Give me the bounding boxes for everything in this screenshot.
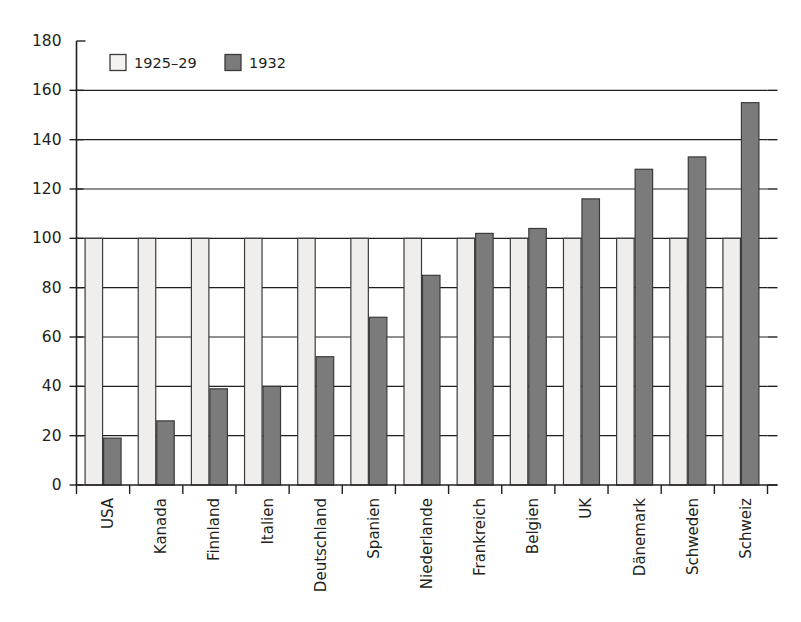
y-tick-label: 20 xyxy=(42,427,62,445)
bar-1925-29 xyxy=(298,238,316,485)
bar-1932 xyxy=(476,233,494,485)
y-tick-label: 60 xyxy=(42,328,62,346)
x-tick-label: UK xyxy=(577,497,595,519)
legend-swatch-1932 xyxy=(225,55,241,71)
x-tick-label: Dänemark xyxy=(631,498,649,576)
y-tick-labels: 020406080100120140160180 xyxy=(32,32,62,494)
y-tick-label: 0 xyxy=(52,476,62,494)
y-tick-label: 100 xyxy=(32,229,62,247)
y-axis xyxy=(77,41,86,485)
bar-1932 xyxy=(104,438,122,485)
legend-label-1932: 1932 xyxy=(249,55,286,71)
bar-1925-29 xyxy=(245,238,262,485)
y-tick-label: 160 xyxy=(32,81,62,99)
bar-1932 xyxy=(582,199,600,485)
legend: 1925–291932 xyxy=(110,55,286,71)
x-tick-labels: USAKanadaFinnlandItalienDeutschlandSpani… xyxy=(99,497,755,592)
x-tick-label: Spanien xyxy=(365,498,383,559)
bar-1925-29 xyxy=(85,238,103,485)
bars xyxy=(85,103,759,485)
bar-1925-29 xyxy=(510,238,528,485)
legend-label-1925-29: 1925–29 xyxy=(134,55,197,71)
y-tick-label: 180 xyxy=(32,32,62,50)
bar-1932 xyxy=(263,386,281,485)
bar-1925-29 xyxy=(351,238,369,485)
x-tick-label: USA xyxy=(99,497,117,529)
x-tick-label: Finnland xyxy=(205,498,223,561)
x-tick-label: Kanada xyxy=(152,498,170,554)
bar-1932 xyxy=(423,275,441,485)
y-tick-label: 140 xyxy=(32,131,62,149)
bar-chart: 020406080100120140160180 USAKanadaFinnla… xyxy=(0,0,801,622)
bar-1932 xyxy=(529,228,547,485)
bar-1925-29 xyxy=(404,238,422,485)
bar-1925-29 xyxy=(617,238,635,485)
bar-1932 xyxy=(688,157,706,485)
bar-1925-29 xyxy=(457,238,475,485)
bar-1925-29 xyxy=(670,238,688,485)
bar-1925-29 xyxy=(563,238,581,485)
chart-canvas: 020406080100120140160180 USAKanadaFinnla… xyxy=(0,0,801,622)
legend-swatch-1925-29 xyxy=(110,55,126,71)
y-tick-label: 40 xyxy=(42,377,62,395)
bar-1932 xyxy=(635,169,653,485)
x-tick-label: Italien xyxy=(259,498,277,545)
x-tick-label: Frankreich xyxy=(471,498,489,576)
bar-1932 xyxy=(316,357,334,485)
y-tick-label: 80 xyxy=(42,279,62,297)
x-tick-label: Schweden xyxy=(684,498,702,575)
x-tick-label: Schweiz xyxy=(737,498,755,559)
bar-1925-29 xyxy=(723,238,741,485)
bar-1925-29 xyxy=(138,238,156,485)
x-tick-label: Deutschland xyxy=(312,498,330,592)
x-tick-label: Belgien xyxy=(524,498,542,554)
bar-1932 xyxy=(157,421,175,485)
y-tick-label: 120 xyxy=(32,180,62,198)
bar-1932 xyxy=(741,103,759,485)
x-tick-label: Niederlande xyxy=(418,498,436,589)
bar-1925-29 xyxy=(191,238,209,485)
bar-1932 xyxy=(210,389,228,485)
bar-1932 xyxy=(369,317,387,485)
